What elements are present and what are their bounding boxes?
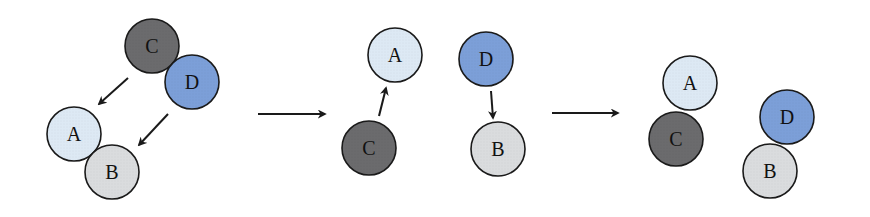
node-label: A	[388, 44, 403, 66]
node-label: B	[105, 161, 118, 183]
node-label: D	[780, 106, 794, 128]
node-c: C	[342, 121, 396, 175]
node-a: A	[368, 28, 422, 82]
node-d: D	[165, 55, 219, 109]
node-label: D	[479, 48, 493, 70]
move-arrow-d-to-b	[139, 114, 168, 145]
node-b: B	[743, 144, 797, 198]
node-d: D	[459, 32, 513, 86]
node-label: D	[185, 71, 199, 93]
node-label: B	[763, 160, 776, 182]
move-arrow-d-to-b	[491, 91, 493, 118]
move-arrow-c-to-a	[99, 78, 128, 104]
node-d: D	[760, 90, 814, 144]
reaction-diagram: CDABACDBACDB	[0, 0, 870, 217]
node-label: A	[683, 72, 698, 94]
node-label: C	[362, 137, 375, 159]
node-b: B	[85, 145, 139, 199]
panel-separated: ACDB	[342, 28, 525, 176]
node-b: B	[471, 122, 525, 176]
diagram-canvas: CDABACDBACDB	[0, 0, 870, 217]
node-label: A	[67, 123, 82, 145]
node-c: C	[649, 112, 703, 166]
node-a: A	[663, 56, 717, 110]
panels: CDABACDBACDB	[47, 19, 814, 199]
node-label: C	[145, 35, 158, 57]
move-arrow-c-to-a	[379, 88, 386, 116]
transition-arrows	[258, 113, 618, 114]
panel-initial: CDAB	[47, 19, 219, 199]
node-label: C	[669, 128, 682, 150]
panel-exchanged: ACDB	[649, 56, 814, 198]
node-label: B	[491, 138, 504, 160]
